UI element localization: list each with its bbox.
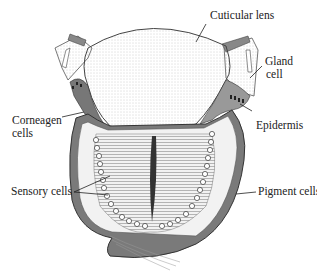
diagram-artwork [0, 0, 317, 276]
ocellus-diagram: Cuticular lens Gland cell Corneagen cell… [0, 0, 317, 276]
label-epidermis: Epidermis [256, 119, 303, 131]
label-sensory-cells: Sensory cells [11, 185, 72, 197]
label-gland-cell: cell [266, 68, 283, 80]
label-gland: Gland [265, 55, 293, 67]
label-corneagen-cells: cells [12, 127, 33, 139]
label-corneagen: Corneagen [12, 114, 62, 126]
label-cuticular-lens: Cuticular lens [210, 9, 274, 21]
label-pigment-cells: Pigment cells [258, 185, 317, 197]
